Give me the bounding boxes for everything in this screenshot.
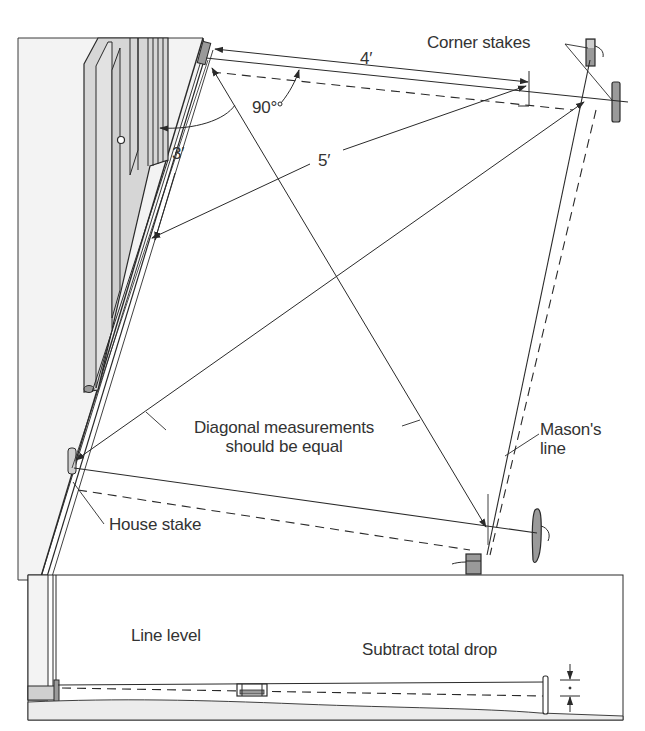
diagonal-label-line1: Diagonal measurements: [168, 418, 400, 437]
subtract-total-drop-label: Subtract total drop: [362, 640, 497, 659]
house-stake-bottom: [68, 448, 76, 474]
dimension-5ft-label: 5′: [318, 151, 330, 170]
corner-stake-top-left: [586, 39, 603, 66]
line-level-panel: [28, 575, 623, 720]
corner-stake-top-right: [612, 82, 620, 122]
dimension-5ft: [152, 86, 526, 238]
door-illustration: [84, 38, 168, 393]
layout-diagram: [0, 0, 645, 731]
masons-line-label: Mason's line: [540, 420, 601, 458]
diagram-stage: Corner stakes 4′ 3′ 5′ 90° Diagonal meas…: [0, 0, 645, 731]
dimension-4ft-label: 4′: [360, 49, 372, 68]
house-stake-label: House stake: [109, 515, 201, 534]
angle-90-label: 90°: [252, 98, 277, 117]
corner-stake-bottom-right: [532, 509, 549, 563]
corner-stake-bottom-left: [452, 554, 481, 574]
corner-stakes-label: Corner stakes: [427, 33, 530, 52]
dimension-3ft-label: 3′: [172, 144, 184, 163]
line-level-label: Line level: [131, 626, 201, 645]
masons-label-line1: Mason's: [540, 420, 601, 439]
diagonal-label-line2: should be equal: [168, 437, 400, 456]
door-knob-icon: [118, 137, 125, 144]
diagonal-measurements-label: Diagonal measurements should be equal: [168, 418, 400, 456]
masons-label-line2: line: [540, 439, 601, 458]
line-level-icon: [237, 684, 267, 696]
